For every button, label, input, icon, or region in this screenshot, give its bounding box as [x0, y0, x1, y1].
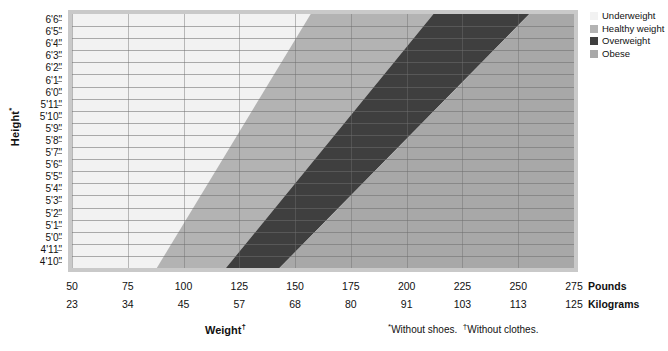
y-axis-tick-mark	[57, 44, 62, 45]
vertical-gridline	[295, 14, 296, 268]
x-axis-tick-label: 103	[454, 298, 472, 310]
x-axis-tick-label: 250	[509, 280, 527, 292]
legend-item: Overweight	[590, 35, 668, 48]
y-axis-tick-mark	[57, 189, 62, 190]
x-axis-tick-label: 45	[178, 298, 190, 310]
x-axis-tick-label: 50	[66, 280, 78, 292]
horizontal-gridline	[72, 62, 574, 63]
x-axis-tick-label: 175	[342, 280, 360, 292]
y-axis-tick-mark	[57, 201, 62, 202]
x-axis-title-text: Weight	[205, 324, 241, 336]
x-axis-tick-label: 125	[231, 280, 249, 292]
x-axis-tick-label: 100	[175, 280, 193, 292]
y-axis-tick-mark	[57, 250, 62, 251]
x-axis-tick-label: 275	[565, 280, 583, 292]
x-axis-tick-label: 23	[66, 298, 78, 310]
x-axis-kilograms-row: 23344557688091103113125Kilograms	[0, 298, 668, 312]
legend-swatch-icon	[590, 50, 598, 58]
horizontal-gridline	[72, 171, 574, 172]
footnote-clothes-text: Without clothes.	[467, 324, 538, 335]
horizontal-gridline	[72, 111, 574, 112]
horizontal-gridline	[72, 183, 574, 184]
y-axis-title-marker: *	[7, 107, 16, 110]
vertical-gridline	[518, 14, 519, 268]
x-axis-title-marker: †	[241, 322, 245, 331]
legend-item-label: Overweight	[602, 35, 650, 48]
horizontal-gridline	[72, 220, 574, 221]
vertical-gridline	[462, 14, 463, 268]
x-axis-tick-label: 57	[233, 298, 245, 310]
y-axis-tick-mark	[57, 153, 62, 154]
y-axis-tick-mark	[57, 129, 62, 130]
vertical-gridline	[72, 14, 73, 268]
legend-item: Underweight	[590, 10, 668, 23]
horizontal-gridline	[72, 256, 574, 257]
x-axis-tick-label: 150	[286, 280, 304, 292]
x-axis-unit-pounds: Pounds	[588, 280, 627, 292]
legend-item-label: Underweight	[602, 10, 655, 23]
y-axis-tick-mark	[57, 56, 62, 57]
x-axis-tick-label: 125	[565, 298, 583, 310]
plot-area-frame	[68, 10, 578, 272]
y-axis-tick-mark	[57, 20, 62, 21]
footnote: *Without shoes. †Without clothes.	[388, 322, 538, 335]
y-axis-tick-mark	[57, 262, 62, 263]
x-axis-tick-label: 225	[454, 280, 472, 292]
y-axis-tick-mark	[57, 177, 62, 178]
y-axis-tick-mark	[57, 238, 62, 239]
plot-area	[72, 14, 574, 268]
x-axis-tick-label: 80	[345, 298, 357, 310]
legend: UnderweightHealthy weightOverweightObese	[590, 10, 668, 60]
horizontal-gridline	[72, 26, 574, 27]
legend-item-label: Obese	[602, 48, 630, 61]
y-axis-tick-labels: 6'6"6'5"6'4"6'3"6'2"6'1"6'0"5'11"5'10"5'…	[18, 10, 62, 272]
y-axis-tick-mark	[57, 117, 62, 118]
horizontal-gridline	[72, 195, 574, 196]
x-axis-pounds-row: 5075100125150175200225250275Pounds	[0, 280, 668, 294]
y-axis-tick-mark	[57, 81, 62, 82]
legend-swatch-icon	[590, 25, 598, 33]
legend-swatch-icon	[590, 37, 598, 45]
horizontal-gridline	[72, 159, 574, 160]
y-axis-tick-mark	[57, 141, 62, 142]
horizontal-gridline	[72, 74, 574, 75]
y-axis-tick-mark	[57, 105, 62, 106]
vertical-gridline	[407, 14, 408, 268]
horizontal-gridline	[72, 99, 574, 100]
y-axis-tick-mark	[57, 226, 62, 227]
y-axis-tick-mark	[57, 214, 62, 215]
vertical-gridline	[128, 14, 129, 268]
x-axis-title: Weight†	[205, 322, 246, 336]
horizontal-gridline	[72, 208, 574, 209]
horizontal-gridline	[72, 244, 574, 245]
legend-swatch-icon	[590, 12, 598, 20]
y-axis-tick-mark	[57, 93, 62, 94]
x-axis-tick-label: 200	[398, 280, 416, 292]
x-axis-tick-label: 91	[401, 298, 413, 310]
horizontal-gridline	[72, 50, 574, 51]
vertical-gridline	[184, 14, 185, 268]
x-axis-tick-label: 75	[122, 280, 134, 292]
legend-item: Healthy weight	[590, 23, 668, 36]
bmi-chart-figure: Height* 6'6"6'5"6'4"6'3"6'2"6'1"6'0"5'11…	[0, 0, 668, 351]
x-axis-tick-label: 34	[122, 298, 134, 310]
y-axis-tick-mark	[57, 165, 62, 166]
legend-item-label: Healthy weight	[602, 23, 664, 36]
x-axis-unit-kilograms: Kilograms	[588, 298, 639, 310]
horizontal-gridline	[72, 135, 574, 136]
x-axis-tick-label: 113	[510, 298, 527, 310]
x-axis-tick-label: 68	[289, 298, 301, 310]
horizontal-gridline	[72, 123, 574, 124]
vertical-gridline	[351, 14, 352, 268]
y-axis-tick-mark	[57, 32, 62, 33]
legend-item: Obese	[590, 48, 668, 61]
horizontal-gridline	[72, 87, 574, 88]
footnote-shoes-text: Without shoes.	[391, 324, 457, 335]
horizontal-gridline	[72, 147, 574, 148]
horizontal-gridline	[72, 38, 574, 39]
y-axis-tick-mark	[57, 68, 62, 69]
horizontal-gridline	[72, 232, 574, 233]
vertical-gridline	[239, 14, 240, 268]
